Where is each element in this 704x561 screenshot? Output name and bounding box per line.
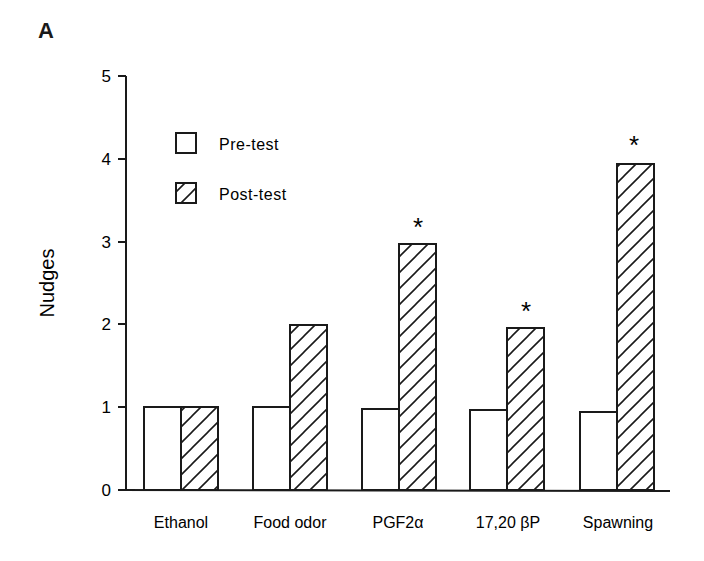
bar-post-test-ethanol [181,407,218,490]
xtick-label-ethanol: Ethanol [154,514,208,531]
ytick-label-1: 1 [102,398,111,417]
bar-group-food-odor [253,325,327,490]
ytick-label-5: 5 [102,67,111,86]
bar-group-ethanol [144,407,218,490]
bar-post-test-pgf2a [399,244,436,490]
bar-post-test-spawning [617,164,654,490]
bar-pre-test-pgf2a [362,409,399,490]
legend-label-pre-test: Pre-test [219,136,279,153]
legend-label-post-test: Post-test [219,186,287,203]
bar-group-pgf2a [362,244,436,490]
legend-swatch-post-test [176,183,196,203]
ytick-label-2: 2 [102,315,111,334]
significance-marker-spawning: * [629,130,639,160]
bar-pre-test-food-odor [253,407,290,490]
bar-pre-test-ethanol [144,407,181,490]
bar-post-test-17-20-bp [507,328,544,490]
xtick-label-pgf2a: PGF2α [372,514,423,531]
legend-swatch-pre-test [176,133,196,153]
bar-chart: 0 1 2 3 4 5 Nudges * * * Ethanol Food od… [0,0,704,561]
xtick-label-17-20-bp: 17,20 βP [476,514,540,531]
xtick-label-spawning: Spawning [583,514,653,531]
bar-group-17-20-bp [470,328,544,490]
significance-marker-pgf2a: * [413,212,423,242]
y-axis: 0 1 2 3 4 5 [102,67,126,500]
bar-pre-test-17-20-bp [470,410,507,490]
y-axis-label: Nudges [36,249,58,318]
bar-post-test-food-odor [290,325,327,490]
ytick-label-0: 0 [102,481,111,500]
significance-marker-17-20-bp: * [521,296,531,326]
bar-pre-test-spawning [580,412,617,490]
ytick-label-3: 3 [102,233,111,252]
bar-group-spawning [580,164,654,490]
xtick-label-food-odor: Food odor [254,514,328,531]
ytick-label-4: 4 [102,150,111,169]
legend: Pre-test Post-test [176,133,287,203]
